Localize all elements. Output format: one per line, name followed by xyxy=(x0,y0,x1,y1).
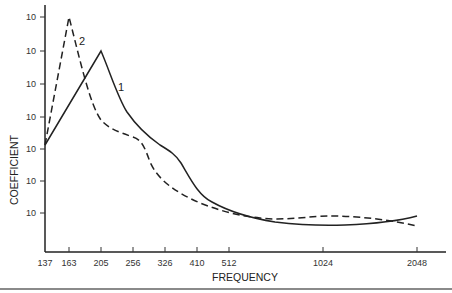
x-tick-label: 256 xyxy=(125,258,140,268)
y-tick-label: 10 xyxy=(26,46,36,56)
series-2-label: 2 xyxy=(79,35,85,47)
series-1-line xyxy=(45,51,417,225)
x-tick-labels: 137 163 205 256 326 410 512 1024 2048 xyxy=(37,258,427,268)
bottom-border xyxy=(0,288,452,290)
series-1-label: 1 xyxy=(118,81,124,93)
series-2-line xyxy=(45,17,417,226)
line-chart: 10 10 10 10 10 10 10 137 163 205 256 326… xyxy=(0,0,452,293)
y-tick-label: 10 xyxy=(26,208,36,218)
y-tick-label: 10 xyxy=(26,176,36,186)
x-tick-label: 2048 xyxy=(407,258,427,268)
x-tick-label: 163 xyxy=(61,258,76,268)
y-axis-title: COEFFICIENT xyxy=(8,134,20,205)
x-axis-title: FREQUENCY xyxy=(212,271,278,283)
y-tick-label: 10 xyxy=(26,79,36,89)
y-tick-label: 10 xyxy=(26,12,36,22)
x-tick-label: 137 xyxy=(37,258,52,268)
x-tick-label: 326 xyxy=(157,258,172,268)
x-tick-label: 512 xyxy=(221,258,236,268)
x-tick-label: 410 xyxy=(189,258,204,268)
y-tick-label: 10 xyxy=(26,112,36,122)
y-tick-label: 10 xyxy=(26,144,36,154)
x-tick-label: 1024 xyxy=(313,258,333,268)
y-tick-labels: 10 10 10 10 10 10 10 xyxy=(26,12,36,218)
x-tick-label: 205 xyxy=(93,258,108,268)
